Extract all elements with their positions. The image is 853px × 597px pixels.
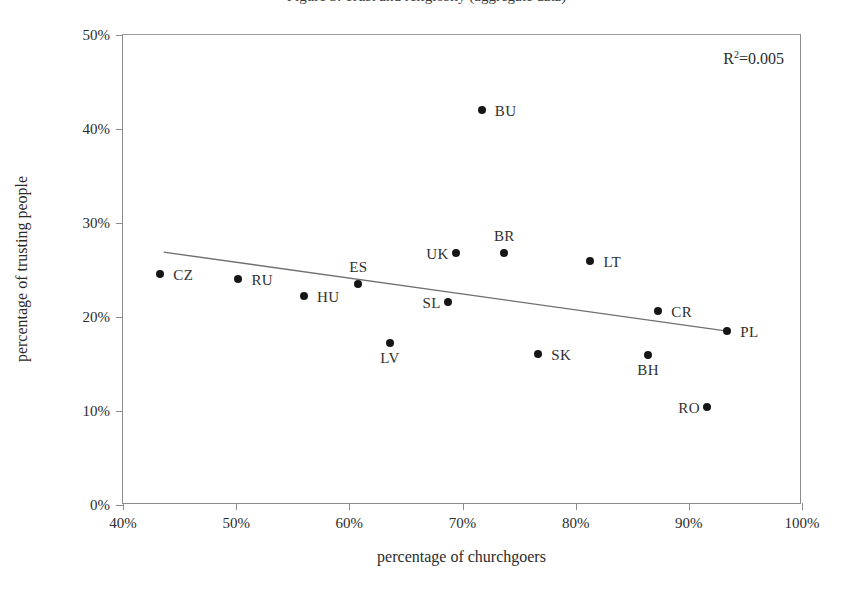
data-point-label: CR (671, 304, 692, 321)
data-point-label: BH (637, 362, 659, 379)
data-point-marker (478, 106, 486, 114)
x-axis-title: percentage of churchgoers (122, 548, 801, 566)
data-point-marker (654, 307, 662, 315)
data-point-marker (703, 403, 711, 411)
data-point-marker (300, 292, 308, 300)
data-point-label: HU (317, 289, 339, 306)
x-tick-mark (463, 503, 464, 510)
data-point-marker (354, 280, 362, 288)
x-tick-mark (236, 503, 237, 510)
x-tick-mark (123, 503, 124, 510)
data-point-marker (156, 270, 164, 278)
x-tick-label: 80% (562, 515, 590, 532)
data-point-label: ES (349, 259, 367, 276)
y-tick-label: 50% (83, 27, 111, 44)
x-tick-mark (349, 503, 350, 510)
y-tick-label: 0% (90, 497, 110, 514)
x-tick-mark (802, 503, 803, 510)
data-point-label: UK (426, 246, 448, 263)
y-tick-mark (116, 129, 123, 130)
data-point-marker (444, 298, 452, 306)
y-tick-mark (116, 505, 123, 506)
data-point-label: CZ (173, 266, 193, 283)
y-axis-title: percentage of trusting people (13, 176, 31, 362)
data-point-label: RU (251, 272, 273, 289)
x-tick-mark (689, 503, 690, 510)
data-point-marker (586, 257, 594, 265)
x-tick-label: 60% (336, 515, 364, 532)
data-point-label: LV (380, 350, 399, 367)
y-tick-mark (116, 35, 123, 36)
data-point-marker (534, 350, 542, 358)
data-point-marker (500, 249, 508, 257)
data-point-label: BR (494, 228, 515, 245)
data-point-marker (452, 249, 460, 257)
data-point-label: BU (495, 103, 517, 120)
x-tick-label: 50% (222, 515, 250, 532)
x-tick-label: 70% (449, 515, 477, 532)
y-tick-label: 40% (83, 121, 111, 138)
data-point-marker (644, 351, 652, 359)
y-tick-label: 20% (83, 309, 111, 326)
data-point-label: SL (422, 294, 440, 311)
y-tick-mark (116, 317, 123, 318)
data-point-label: LT (603, 253, 621, 270)
data-point-marker (234, 275, 242, 283)
data-point-label: SK (551, 346, 571, 363)
x-tick-mark (576, 503, 577, 510)
y-tick-mark (116, 223, 123, 224)
data-point-label: RO (678, 400, 700, 417)
data-point-marker (386, 339, 394, 347)
data-point-marker (723, 327, 731, 335)
plot-area: R2=0.005 CZRUHUESLVSLUKBUBRSKLTBHCRROPL … (122, 34, 801, 504)
x-tick-label: 40% (109, 515, 137, 532)
scatter-plot-figure: Figure 3. Trust and religiosity (aggrega… (0, 0, 853, 597)
figure-caption: Figure 3. Trust and religiosity (aggrega… (0, 0, 853, 4)
x-tick-label: 90% (675, 515, 703, 532)
x-tick-label: 100% (785, 515, 820, 532)
y-tick-mark (116, 411, 123, 412)
data-point-label: PL (740, 324, 758, 341)
y-tick-label: 30% (83, 215, 111, 232)
data-layer: CZRUHUESLVSLUKBUBRSKLTBHCRROPL (123, 35, 800, 503)
y-tick-label: 10% (83, 403, 111, 420)
